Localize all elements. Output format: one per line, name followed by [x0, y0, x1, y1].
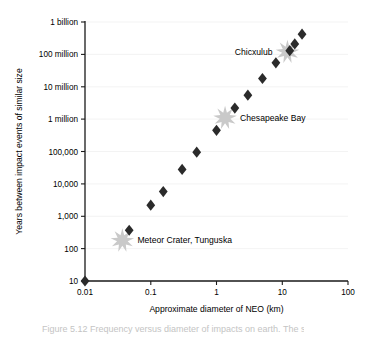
- data-point-diamond: [243, 90, 252, 101]
- data-point-diamond: [81, 275, 90, 286]
- axis-titles-layer: Approximate diameter of NEO (km)Years be…: [14, 68, 284, 314]
- data-point-diamond: [146, 200, 155, 211]
- data-point-diamond: [159, 186, 168, 197]
- data-point-diamond: [230, 102, 239, 113]
- annotation-labels-layer: Meteor Crater, TunguskaChesapeake BayChi…: [137, 47, 306, 246]
- data-point-diamond: [258, 73, 267, 84]
- y-tick-label: 1 million: [48, 115, 78, 124]
- data-point-diamond: [192, 147, 201, 158]
- y-tick-label: 10: [69, 277, 79, 286]
- x-axis-title: Approximate diameter of NEO (km): [149, 304, 283, 314]
- x-tick-label: 1: [214, 288, 219, 297]
- data-point-diamond: [298, 29, 307, 40]
- y-tick-label: 1,000: [58, 212, 79, 221]
- y-axis-title: Years between impact events of similar s…: [14, 68, 24, 235]
- data-point-diamond: [271, 57, 280, 68]
- annotation-label: Meteor Crater, Tunguska: [137, 235, 232, 245]
- x-tick-label: 0.01: [77, 288, 93, 297]
- figure-caption-partial: Figure 5.12 Frequency versus diameter of…: [42, 325, 304, 334]
- y-tick-label: 10,000: [53, 180, 78, 189]
- data-point-diamond: [178, 164, 187, 175]
- y-tick-label: 100: [64, 245, 78, 254]
- annotation-markers-layer: [111, 40, 300, 252]
- impact-frequency-scatter-chart: 101001,00010,000100,0001 million10 milli…: [0, 0, 372, 337]
- x-tick-label: 10: [278, 288, 288, 297]
- figure-container: 101001,00010,000100,0001 million10 milli…: [0, 0, 372, 337]
- y-tick-label: 1 billion: [50, 18, 78, 27]
- data-points-layer: [81, 29, 307, 287]
- annotation-label: Chesapeake Bay: [240, 113, 306, 123]
- data-point-diamond: [212, 125, 221, 136]
- annotation-label: Chicxulub: [235, 47, 273, 57]
- y-tick-label: 100 million: [39, 50, 79, 59]
- y-tick-label: 100,000: [48, 148, 78, 157]
- x-tick-label: 100: [341, 288, 355, 297]
- x-tick-label: 0.1: [145, 288, 157, 297]
- axis-ticks-layer: 101001,00010,000100,0001 million10 milli…: [39, 18, 355, 297]
- y-tick-label: 10 million: [43, 83, 78, 92]
